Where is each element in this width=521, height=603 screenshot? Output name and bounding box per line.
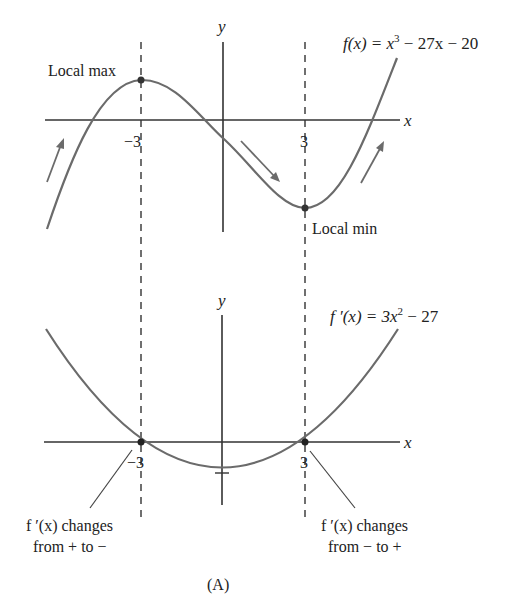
bottom-y-axis-label: y bbox=[216, 291, 226, 310]
left-leader-line bbox=[90, 450, 132, 508]
right-annotation-line2: from − to + bbox=[328, 538, 402, 555]
increasing-arrow-right-icon bbox=[361, 141, 384, 183]
bottom-tick-neg3: −3 bbox=[127, 454, 144, 471]
figure-caption: (A) bbox=[207, 576, 229, 594]
local-min-point bbox=[302, 205, 309, 212]
top-tick-neg3: −3 bbox=[124, 133, 141, 150]
right-annotation-line1: f ′(x) changes bbox=[321, 517, 408, 535]
local-max-label: Local max bbox=[48, 62, 116, 79]
calculus-figure: x y −3 3 Local max Local min f(x) = x3 −… bbox=[0, 0, 521, 603]
increasing-arrow-left-icon bbox=[47, 138, 64, 182]
zero-point-pos3 bbox=[302, 439, 309, 446]
top-panel: x y −3 3 Local max Local min f(x) = x3 −… bbox=[45, 17, 478, 520]
bottom-tick-pos3: 3 bbox=[300, 454, 308, 471]
top-y-axis-label: y bbox=[216, 17, 226, 36]
bottom-x-axis-label: x bbox=[403, 433, 412, 452]
top-tick-pos3: 3 bbox=[300, 133, 308, 150]
zero-point-neg3 bbox=[138, 439, 145, 446]
local-max-point bbox=[138, 77, 145, 84]
cubic-curve bbox=[47, 58, 397, 229]
bottom-panel: x y −3 3 f ′(x) = 3x2 − 27 f ′(x) change… bbox=[26, 291, 439, 555]
left-annotation-line2: from + to − bbox=[33, 538, 107, 555]
right-leader-line bbox=[310, 451, 355, 508]
top-x-axis-label: x bbox=[403, 111, 412, 130]
derivative-function-label: f ′(x) = 3x2 − 27 bbox=[330, 305, 439, 326]
cubic-function-label: f(x) = x3 − 27x − 20 bbox=[343, 32, 478, 53]
left-annotation-line1: f ′(x) changes bbox=[26, 517, 113, 535]
local-min-label: Local min bbox=[312, 220, 377, 237]
